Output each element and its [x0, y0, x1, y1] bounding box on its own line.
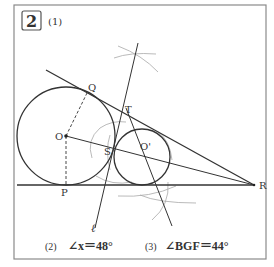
label-S: S: [104, 146, 111, 157]
construction-arcs: [90, 46, 196, 220]
point-R: [253, 184, 256, 187]
tangent-line-QR: [46, 70, 254, 185]
label-R: R: [259, 180, 267, 191]
point-O: [64, 134, 68, 138]
part2-answer: ∠x＝48°: [68, 239, 113, 253]
problem-number: 2: [26, 12, 37, 31]
radius-OQ: [66, 91, 88, 136]
part2-label: (2): [45, 241, 57, 253]
circle-O-prime: [114, 129, 170, 185]
part1-label: (1): [48, 16, 62, 27]
label-line-l: ℓ: [91, 222, 96, 235]
label-Q: Q: [88, 82, 96, 93]
label-O: O: [55, 131, 63, 142]
label-P: P: [61, 187, 68, 198]
label-O-prime: O': [140, 141, 151, 152]
line-l: [95, 43, 138, 228]
frame-border: [14, 5, 266, 259]
label-T: T: [125, 104, 132, 115]
line-T-O-prime: [126, 108, 172, 226]
part3-answer: ∠BGF＝44°: [165, 239, 229, 253]
geometry-figure: 2 (1) Q T O S O' P R: [0, 0, 274, 267]
part3-label: (3): [145, 241, 157, 253]
